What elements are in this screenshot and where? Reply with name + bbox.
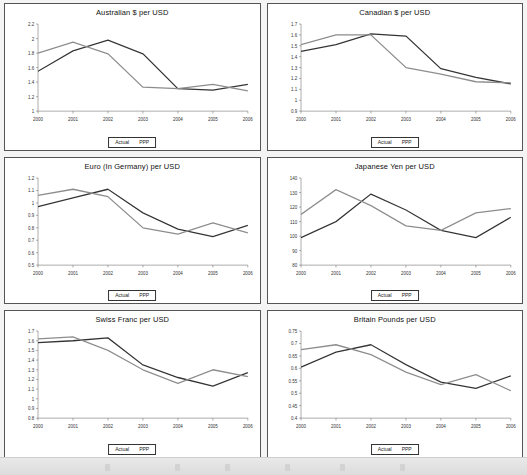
y-tick-label: 0.65 [288, 354, 297, 359]
x-tick-label: 2001 [68, 116, 78, 121]
x-tick-label: 2003 [138, 116, 148, 121]
series-line-actual [301, 345, 511, 389]
plot-area: 0.40.450.50.550.60.650.70.75200020012002… [268, 324, 523, 442]
y-tick-label: 1.1 [28, 387, 34, 392]
y-tick-label: 110 [290, 219, 297, 224]
y-tick-label: 140 [289, 175, 297, 180]
page-root: Australian $ per USD11.21.41.61.822.2200… [0, 0, 527, 475]
chart-panel-swiss-franc: Swiss Franc per USD0.80.911.11.21.31.41.… [4, 310, 261, 458]
series-line-ppp [301, 345, 511, 391]
x-tick-label: 2001 [68, 424, 78, 429]
legend-item-actual: Actual [378, 292, 392, 299]
x-tick-label: 2000 [296, 424, 306, 429]
toolbar-icon[interactable] [225, 464, 230, 471]
y-tick-label: 1.7 [28, 329, 34, 334]
y-tick-label: 1.5 [290, 43, 296, 48]
y-tick-label: 0.75 [288, 329, 297, 334]
y-tick-label: 1.2 [290, 76, 296, 81]
plot-area: 8090100110120130140200020012002200320042… [268, 171, 523, 289]
y-tick-label: 1.8 [28, 51, 34, 56]
legend-item-ppp: PPP [402, 292, 412, 299]
legend-item-ppp: PPP [402, 139, 412, 146]
chart-legend[interactable]: ActualPPP [371, 444, 419, 455]
series-line-actual [38, 338, 248, 386]
y-tick-label: 0.9 [28, 213, 34, 218]
y-tick-label: 1.1 [28, 188, 34, 193]
y-tick-label: 2.2 [28, 22, 34, 27]
toolbar-icon[interactable] [340, 464, 345, 471]
x-tick-label: 2006 [505, 424, 515, 429]
y-tick-label: 1.6 [290, 33, 296, 38]
chart-panel-britain-pounds: Britain Pounds per USD0.40.450.50.550.60… [267, 310, 524, 458]
y-tick-label: 1.4 [28, 80, 34, 85]
x-tick-label: 2005 [470, 424, 480, 429]
x-tick-label: 2001 [331, 270, 341, 275]
y-tick-label: 1.4 [290, 54, 296, 59]
x-tick-label: 2002 [365, 424, 375, 429]
x-tick-label: 2004 [173, 424, 183, 429]
y-tick-label: 2 [32, 36, 35, 41]
y-tick-label: 120 [289, 204, 297, 209]
series-line-actual [301, 194, 511, 238]
toolbar-icon[interactable] [400, 464, 405, 471]
chart-grid: Australian $ per USD11.21.41.61.822.2200… [0, 0, 527, 458]
plot-area: 11.21.41.61.822.220002001200220032004200… [5, 17, 260, 135]
y-tick-label: 0.6 [290, 366, 296, 371]
chart-legend[interactable]: ActualPPP [108, 137, 156, 148]
x-tick-label: 2000 [296, 116, 306, 121]
x-tick-label: 2005 [208, 270, 218, 275]
toolbar-icon[interactable] [285, 464, 290, 471]
chart-title: Swiss Franc per USD [5, 311, 260, 324]
x-tick-label: 2000 [33, 424, 43, 429]
y-tick-label: 0.9 [28, 406, 34, 411]
x-tick-label: 2003 [138, 424, 148, 429]
chart-legend[interactable]: ActualPPP [108, 290, 156, 301]
chart-title: Australian $ per USD [5, 4, 260, 17]
y-tick-label: 130 [289, 190, 297, 195]
y-tick-label: 80 [292, 262, 297, 267]
x-tick-label: 2001 [331, 116, 341, 121]
toolbar-icon[interactable] [105, 464, 110, 471]
chart-title: Japanese Yen per USD [268, 158, 523, 171]
x-tick-label: 2005 [208, 424, 218, 429]
chart-legend[interactable]: ActualPPP [371, 137, 419, 148]
y-tick-label: 1 [32, 200, 35, 205]
y-tick-label: 1 [32, 109, 35, 114]
x-tick-label: 2005 [470, 270, 480, 275]
plot-area: 0.911.11.21.31.41.51.61.7200020012002200… [268, 17, 523, 135]
bottom-toolbar[interactable] [0, 457, 527, 475]
y-tick-label: 0.7 [28, 238, 34, 243]
y-tick-label: 1 [32, 397, 35, 402]
x-tick-label: 2005 [470, 116, 480, 121]
plot-area: 0.50.60.70.80.911.11.2200020012002200320… [5, 171, 260, 289]
y-tick-label: 100 [289, 233, 297, 238]
x-tick-label: 2000 [33, 270, 43, 275]
series-line-ppp [38, 42, 248, 91]
y-tick-label: 1.3 [290, 65, 296, 70]
chart-panel-euro-germany: Euro (In Germany) per USD0.50.60.70.80.9… [4, 157, 261, 305]
chart-legend[interactable]: ActualPPP [108, 444, 156, 455]
y-tick-label: 1.2 [28, 377, 34, 382]
chart-legend[interactable]: ActualPPP [371, 290, 419, 301]
legend-item-actual: Actual [115, 292, 129, 299]
series-line-ppp [301, 35, 511, 83]
legend-item-actual: Actual [115, 139, 129, 146]
y-tick-label: 1.1 [290, 87, 296, 92]
x-tick-label: 2002 [103, 270, 113, 275]
x-tick-label: 2003 [400, 270, 410, 275]
x-tick-label: 2006 [505, 116, 515, 121]
y-tick-label: 0.7 [290, 341, 296, 346]
x-tick-label: 2006 [505, 270, 515, 275]
chart-panel-australian-dollar: Australian $ per USD11.21.41.61.822.2200… [4, 3, 261, 151]
chart-title: Canadian $ per USD [268, 4, 523, 17]
x-tick-label: 2004 [435, 116, 445, 121]
legend-item-ppp: PPP [139, 139, 149, 146]
x-tick-label: 2001 [68, 270, 78, 275]
y-tick-label: 1.7 [290, 22, 296, 27]
toolbar-icon[interactable] [175, 464, 180, 471]
y-tick-label: 1.2 [28, 175, 34, 180]
x-tick-label: 2002 [365, 116, 375, 121]
x-tick-label: 2001 [331, 424, 341, 429]
series-line-actual [301, 34, 511, 84]
y-tick-label: 0.6 [28, 250, 34, 255]
